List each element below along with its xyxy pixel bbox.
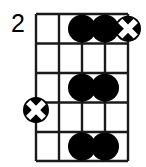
dot-string4-fret3 <box>91 74 119 102</box>
dot-string4-fret5 <box>91 133 119 161</box>
dot-string4-fret1 <box>91 15 119 43</box>
finger-dots <box>68 15 119 161</box>
chord-diagram: 2 <box>0 0 146 167</box>
fretboard-svg <box>0 0 146 167</box>
x-marker-string1-fret4 <box>23 97 49 123</box>
fretboard-grid <box>0 0 146 167</box>
x-marker-string5-fret1 <box>115 16 141 42</box>
